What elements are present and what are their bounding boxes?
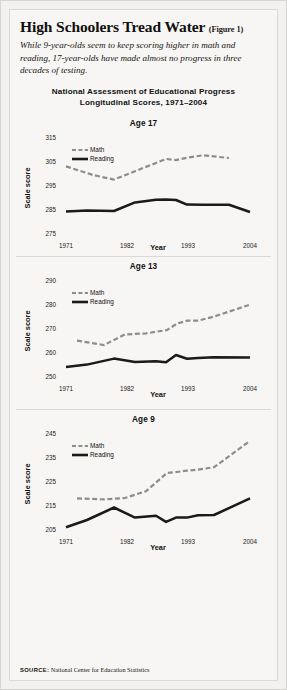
x-tick-1993: 1993 bbox=[181, 242, 196, 249]
x-axis-title-age-13: Year bbox=[150, 390, 166, 397]
legend-math-label: Math bbox=[90, 290, 105, 297]
legend-reading-label: Reading bbox=[90, 156, 114, 164]
y-axis-title-age-9: Scale score bbox=[23, 464, 32, 505]
x-tick-1971: 1971 bbox=[59, 538, 74, 545]
x-tick-1971: 1971 bbox=[59, 385, 74, 392]
panel-title-age-17: Age 17 bbox=[10, 114, 277, 128]
x-tick-1993: 1993 bbox=[181, 538, 196, 545]
series-reading-age-17 bbox=[66, 200, 250, 213]
x-tick-1993: 1993 bbox=[181, 385, 196, 392]
chart-panel-age-9: Age 9 245 235 225 215 205 Scale score Ma… bbox=[10, 410, 277, 560]
chart-title-line-1: National Assessment of Educational Progr… bbox=[20, 86, 267, 97]
source-note: SOURCE: National Center for Education St… bbox=[20, 666, 267, 673]
panel-title-age-13: Age 13 bbox=[10, 257, 277, 271]
y-tick-labels-age-17: 315 305 295 285 275 bbox=[45, 134, 56, 237]
x-tick-1971: 1971 bbox=[59, 242, 74, 249]
y-axis-title-age-13: Scale score bbox=[23, 311, 32, 352]
legend-age-13: Math Reading bbox=[72, 290, 114, 307]
figure-dek: While 9-year-olds seem to keep scoring h… bbox=[20, 39, 267, 77]
y-tick-235: 235 bbox=[45, 454, 56, 461]
x-tick-2004: 2004 bbox=[243, 385, 258, 392]
chart-panel-age-17: Age 17 315 305 295 285 275 Scale score M… bbox=[10, 114, 277, 254]
source-lead: SOURCE: bbox=[20, 667, 49, 673]
figure-inner: High Schoolers Tread Water (Figure 1) Wh… bbox=[9, 9, 278, 681]
headline-text: High Schoolers Tread Water bbox=[20, 18, 205, 35]
legend-age-17: Math Reading bbox=[72, 147, 114, 164]
series-math-age-13 bbox=[77, 305, 250, 345]
x-tick-2004: 2004 bbox=[243, 242, 258, 249]
x-tick-1982: 1982 bbox=[120, 242, 135, 249]
figure-label: (Figure 1) bbox=[209, 25, 243, 34]
y-tick-250: 250 bbox=[45, 373, 56, 380]
legend-reading-label: Reading bbox=[90, 299, 114, 307]
chart-svg-age-17: 315 305 295 285 275 Scale score Math Rea… bbox=[10, 128, 277, 250]
y-tick-295: 295 bbox=[45, 182, 56, 189]
series-reading-age-9 bbox=[66, 499, 250, 528]
y-tick-275: 275 bbox=[45, 230, 56, 237]
y-tick-260: 260 bbox=[45, 349, 56, 356]
y-tick-305: 305 bbox=[45, 158, 56, 165]
legend-reading-label: Reading bbox=[90, 452, 114, 460]
figure-card: High Schoolers Tread Water (Figure 1) Wh… bbox=[0, 0, 287, 690]
x-tick-2004: 2004 bbox=[243, 538, 258, 545]
panel-title-age-9: Age 9 bbox=[10, 410, 277, 424]
chart-title-line-2: Longitudinal Scores, 1971–2004 bbox=[20, 97, 267, 108]
page-title: High Schoolers Tread Water (Figure 1) bbox=[20, 19, 267, 35]
chart-supertitle: National Assessment of Educational Progr… bbox=[20, 86, 267, 108]
source-text: National Center for Education Statistics bbox=[51, 666, 150, 673]
y-tick-205: 205 bbox=[45, 526, 56, 533]
chart-panels: Age 17 315 305 295 285 275 Scale score M… bbox=[10, 114, 277, 560]
y-tick-labels-age-9: 245 235 225 215 205 bbox=[45, 430, 56, 533]
series-reading-age-13 bbox=[66, 355, 250, 367]
legend-math-label: Math bbox=[90, 147, 105, 154]
y-tick-215: 215 bbox=[45, 502, 56, 509]
y-tick-315: 315 bbox=[45, 134, 56, 141]
chart-svg-age-13: 290 280 270 260 250 Scale score Math Rea… bbox=[10, 271, 277, 397]
y-tick-245: 245 bbox=[45, 430, 56, 437]
x-tick-1982: 1982 bbox=[120, 538, 135, 545]
y-axis-title-age-17: Scale score bbox=[23, 168, 32, 209]
chart-svg-age-9: 245 235 225 215 205 Scale score Math Rea… bbox=[10, 424, 277, 550]
y-tick-270: 270 bbox=[45, 325, 56, 332]
chart-panel-age-13: Age 13 290 280 270 260 250 Scale score M… bbox=[10, 257, 277, 407]
y-tick-280: 280 bbox=[45, 301, 56, 308]
legend-age-9: Math Reading bbox=[72, 443, 114, 460]
figure-header: High Schoolers Tread Water (Figure 1) Wh… bbox=[10, 10, 277, 112]
y-tick-285: 285 bbox=[45, 206, 56, 213]
x-axis-title-age-17: Year bbox=[150, 243, 166, 250]
y-tick-labels-age-13: 290 280 270 260 250 bbox=[45, 277, 56, 380]
series-math-age-9 bbox=[77, 441, 250, 500]
x-axis-title-age-9: Year bbox=[150, 543, 166, 550]
x-tick-1982: 1982 bbox=[120, 385, 135, 392]
y-tick-290: 290 bbox=[45, 277, 56, 284]
y-tick-225: 225 bbox=[45, 478, 56, 485]
legend-math-label: Math bbox=[90, 443, 105, 450]
